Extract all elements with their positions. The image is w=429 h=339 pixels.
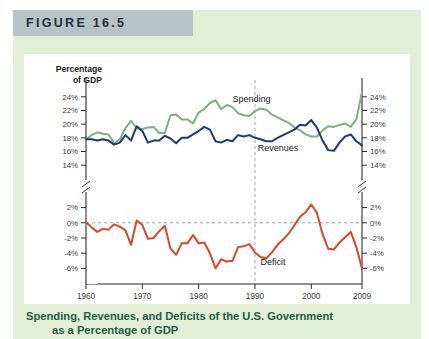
y-tick-upper-left-24: 24%	[62, 93, 78, 102]
y-tick-upper-right-22: 22%	[370, 106, 386, 115]
x-tick-label-1990: 1990	[246, 292, 265, 301]
y-tick-lower-left-0: 0%	[67, 219, 78, 228]
series-label-spending: Spending	[232, 94, 270, 104]
figure-caption: Spending, Revenues, and Deficits of the …	[26, 310, 416, 337]
caption-line-2: as a Percentage of GDP	[52, 324, 416, 338]
y-tick-upper-left-20: 20%	[62, 120, 78, 129]
y-tick-upper-left-22: 22%	[62, 106, 78, 115]
y-tick-lower-left--6: -6%	[64, 264, 78, 273]
y-tick-lower-left--2: -2%	[64, 234, 78, 243]
y-axis-left-break-mark	[82, 181, 90, 193]
y-tick-lower-right-2: 2%	[370, 203, 381, 212]
y-tick-lower-right--2: -2%	[370, 234, 384, 243]
y-tick-lower-left-2: 2%	[67, 203, 78, 212]
y-tick-upper-left-14: 14%	[62, 161, 78, 170]
chart-plot-area: 14%14%16%16%18%18%20%20%22%22%24%24%-6%-…	[24, 54, 410, 304]
y-tick-upper-left-16: 16%	[62, 147, 78, 156]
figure-number-label: FIGURE 16.5	[26, 16, 126, 30]
y-tick-upper-right-20: 20%	[370, 120, 386, 129]
y-axis-right-break-mark	[358, 181, 366, 193]
y-tick-lower-right--4: -4%	[370, 249, 384, 258]
axis-foot-notch	[87, 276, 97, 284]
y-tick-lower-right--6: -6%	[370, 264, 384, 273]
series-label-deficit: Deficit	[261, 257, 287, 267]
y-tick-upper-right-18: 18%	[370, 134, 386, 143]
x-tick-label-1980: 1980	[190, 292, 209, 301]
series-label-revenues: Revenues	[258, 143, 299, 153]
series-line-deficit	[86, 205, 362, 269]
y-tick-lower-right-0: 0%	[370, 219, 381, 228]
y-tick-lower-left--4: -4%	[64, 249, 78, 258]
y-tick-upper-right-24: 24%	[370, 93, 386, 102]
x-tick-label-1970: 1970	[133, 292, 152, 301]
y-tick-upper-right-16: 16%	[370, 147, 386, 156]
y-tick-upper-left-18: 18%	[62, 134, 78, 143]
x-tick-label-1960: 1960	[77, 292, 96, 301]
chart-svg: 14%14%16%16%18%18%20%20%22%22%24%24%-6%-…	[24, 54, 410, 304]
x-tick-label-2009: 2009	[353, 292, 372, 301]
y-tick-upper-right-14: 14%	[370, 161, 386, 170]
x-tick-label-2000: 2000	[302, 292, 321, 301]
caption-line-1: Spending, Revenues, and Deficits of the …	[26, 310, 333, 322]
figure-container: FIGURE 16.5 Percentage of GDP 14%14%16%1…	[0, 0, 429, 339]
